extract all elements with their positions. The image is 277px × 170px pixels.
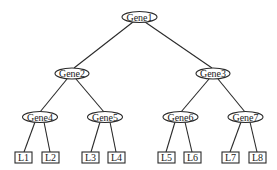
node-label: Gene6 — [167, 112, 193, 123]
edge-gene1-gene3 — [145, 22, 212, 68]
node-gene2: Gene2 — [55, 68, 89, 79]
leaf-l7: L7 — [222, 152, 239, 163]
edge-gene3-gene6 — [181, 79, 209, 112]
edge-gene1-gene2 — [74, 22, 133, 68]
node-gene3: Gene3 — [196, 68, 230, 79]
leaf-l1: L1 — [15, 152, 32, 163]
leaf-label: L3 — [85, 152, 96, 163]
leaf-l5: L5 — [158, 152, 175, 163]
edge-gene3-gene7 — [218, 79, 245, 112]
leaf-label: L8 — [252, 152, 263, 163]
edge-gene5-l4 — [110, 122, 116, 152]
node-gene7: Gene7 — [228, 112, 263, 123]
node-gene5: Gene5 — [88, 112, 123, 123]
edge-gene6-l6 — [185, 122, 192, 152]
leaf-label: L2 — [45, 152, 56, 163]
edge-gene4-l1 — [24, 122, 35, 152]
leaf-l6: L6 — [184, 152, 201, 163]
leaf-label: L4 — [111, 152, 122, 163]
leaf-l2: L2 — [42, 152, 59, 163]
leaf-label: L6 — [187, 152, 198, 163]
edge-gene7-l7 — [230, 122, 241, 152]
edge-gene2-gene4 — [40, 79, 67, 112]
edge-gene7-l8 — [250, 122, 257, 152]
edge-gene2-gene5 — [76, 79, 104, 112]
node-label: Gene1 — [126, 12, 152, 23]
leaf-l3: L3 — [82, 152, 99, 163]
node-label: Gene3 — [200, 68, 226, 79]
edge-gene5-l3 — [91, 122, 100, 152]
edges — [24, 22, 257, 152]
node-label: Gene4 — [27, 112, 53, 123]
node-gene6: Gene6 — [163, 112, 198, 123]
edge-gene6-l5 — [166, 122, 175, 152]
leaf-label: L1 — [18, 152, 29, 163]
leaf-l4: L4 — [108, 152, 125, 163]
edge-gene4-l2 — [44, 122, 50, 152]
gene-tree-diagram: Gene1 Gene2 Gene3 Gene4 Gene5 Gene6 Gene… — [0, 0, 277, 170]
node-gene1: Gene1 — [122, 12, 157, 23]
leaf-label: L7 — [225, 152, 236, 163]
leaf-l8: L8 — [249, 152, 266, 163]
node-label: Gene7 — [232, 112, 258, 123]
node-label: Gene2 — [59, 68, 85, 79]
node-label: Gene5 — [92, 112, 118, 123]
leaf-label: L5 — [161, 152, 172, 163]
node-gene4: Gene4 — [23, 112, 58, 123]
